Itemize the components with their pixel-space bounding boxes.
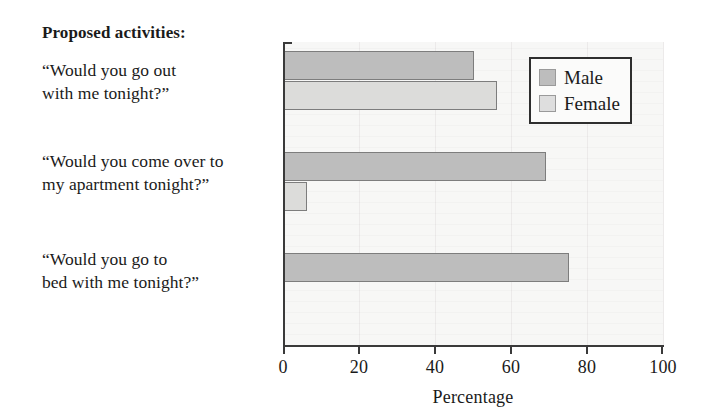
gridline-100 xyxy=(663,42,664,345)
category-label-2: “Would you go to bed with me tonight?” xyxy=(42,248,199,294)
legend-swatch-male-icon xyxy=(539,69,556,86)
legend: Male Female xyxy=(529,57,632,124)
x-tick-60 xyxy=(510,345,512,354)
category-label-column: Proposed activities: “Would you go out w… xyxy=(0,0,278,417)
x-axis-label: Percentage xyxy=(283,387,663,408)
scan-band xyxy=(283,246,663,247)
category-label-1-line-1: my apartment tonight?” xyxy=(42,173,224,196)
scan-band xyxy=(283,290,663,291)
scan-band xyxy=(283,301,663,302)
category-label-0: “Would you go out with me tonight?” xyxy=(42,59,176,105)
x-tick-label-100: 100 xyxy=(633,357,693,378)
category-label-2-line-1: bed with me tonight?” xyxy=(42,271,199,294)
x-tick-label-20: 20 xyxy=(329,357,389,378)
bar-male-0 xyxy=(284,51,474,80)
page-title: Proposed activities: xyxy=(42,23,186,43)
x-tick-label-80: 80 xyxy=(557,357,617,378)
scan-band xyxy=(283,323,663,324)
y-axis-top-tick xyxy=(283,42,292,44)
scan-band xyxy=(283,224,663,225)
category-label-0-line-1: with me tonight?” xyxy=(42,82,176,105)
bar-male-2 xyxy=(284,253,569,282)
y-axis-line xyxy=(283,42,285,346)
x-tick-label-0: 0 xyxy=(253,357,313,378)
legend-item-male: Male xyxy=(539,64,620,90)
category-label-2-line-0: “Would you go to xyxy=(42,248,199,271)
legend-item-female: Female xyxy=(539,90,620,116)
scan-band xyxy=(283,213,663,214)
category-label-1-line-0: “Would you come over to xyxy=(42,150,224,173)
scan-band xyxy=(283,48,663,49)
scan-band xyxy=(283,191,663,192)
x-tick-label-60: 60 xyxy=(481,357,541,378)
x-tick-40 xyxy=(434,345,436,354)
bar-male-1 xyxy=(284,152,546,181)
scan-band xyxy=(283,125,663,126)
gridline-60 xyxy=(511,42,512,345)
category-label-1: “Would you come over to my apartment ton… xyxy=(42,150,224,196)
scan-band xyxy=(283,202,663,203)
scan-band xyxy=(283,312,663,313)
x-tick-100 xyxy=(661,345,663,354)
legend-label-female: Female xyxy=(564,94,620,113)
legend-swatch-female-icon xyxy=(539,95,556,112)
x-tick-80 xyxy=(586,345,588,354)
scan-band xyxy=(283,136,663,137)
scan-band xyxy=(283,235,663,236)
category-label-0-line-0: “Would you go out xyxy=(42,59,176,82)
x-tick-0 xyxy=(283,345,285,354)
bar-female-1 xyxy=(284,182,307,211)
scan-band xyxy=(283,147,663,148)
scan-band xyxy=(283,334,663,335)
x-tick-label-40: 40 xyxy=(405,357,465,378)
x-tick-20 xyxy=(358,345,360,354)
bar-female-0 xyxy=(284,81,497,110)
x-axis-line xyxy=(283,345,664,347)
legend-label-male: Male xyxy=(564,68,603,87)
